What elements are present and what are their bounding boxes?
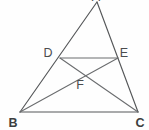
label-b: B bbox=[8, 116, 17, 130]
label-e: E bbox=[120, 46, 128, 60]
label-c: C bbox=[135, 116, 144, 130]
geometry-canvas: A D E F B C bbox=[0, 0, 149, 130]
geometry-figure: A D E F B C bbox=[0, 0, 149, 130]
side-ac bbox=[97, 2, 138, 112]
cevian-dc bbox=[60, 58, 138, 112]
side-ab bbox=[20, 2, 97, 112]
label-a: A bbox=[92, 0, 101, 4]
label-d: D bbox=[43, 46, 52, 60]
label-f: F bbox=[76, 78, 84, 92]
cevian-be bbox=[20, 58, 118, 112]
